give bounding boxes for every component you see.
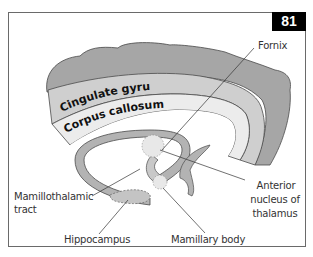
fornix-label: Fornix (258, 40, 287, 52)
mamillary-body-structure (153, 175, 167, 189)
hippocampus-label: Hippocampus (64, 234, 130, 246)
anterior-nucleus-label-line2: nucleus of (245, 194, 305, 206)
anterior-nucleus-structure (142, 135, 164, 157)
anterior-nucleus-label-line1: Anterior (250, 180, 302, 192)
mamillothalamic-tract-label-line1: Mamillothalamic (14, 191, 93, 203)
mamillary-body-label: Mamillary body (171, 234, 245, 246)
mamillothalamic-tract-label-line2: tract (14, 204, 37, 216)
anterior-nucleus-label-line3: thalamus (245, 208, 305, 220)
